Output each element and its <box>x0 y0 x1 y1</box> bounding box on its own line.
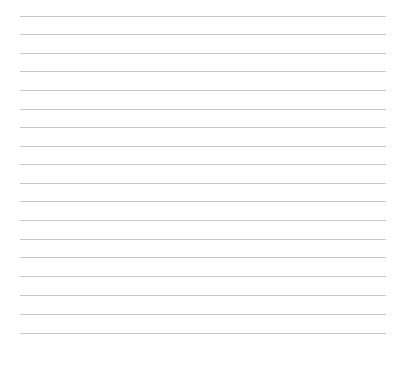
ruled-line <box>20 220 386 221</box>
ruled-line <box>20 127 386 128</box>
ruled-line <box>20 109 386 110</box>
ruled-line <box>20 276 386 277</box>
ruled-line <box>20 333 386 334</box>
ruled-line <box>20 146 386 147</box>
ruled-line <box>20 90 386 91</box>
ruled-line <box>20 201 386 202</box>
ruled-line <box>20 183 386 184</box>
ruled-line <box>20 239 386 240</box>
ruled-line <box>20 34 386 35</box>
lined-paper-sheet <box>0 0 406 368</box>
ruled-line <box>20 295 386 296</box>
ruled-line <box>20 164 386 165</box>
ruled-line <box>20 314 386 315</box>
ruled-line <box>20 71 386 72</box>
ruled-line <box>20 53 386 54</box>
ruled-line <box>20 257 386 258</box>
ruled-line <box>20 16 386 17</box>
